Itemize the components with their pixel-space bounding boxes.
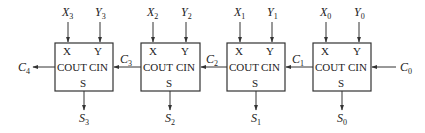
output-s0-label: S0 — [337, 111, 347, 127]
port-cout-label: COUT — [315, 61, 345, 73]
port-s-label: S — [252, 77, 258, 89]
port-s-label: S — [80, 77, 86, 89]
input-y1-label: Y1 — [267, 5, 278, 21]
port-s-label: S — [338, 77, 344, 89]
port-cout-label: COUT — [143, 61, 173, 73]
full-adder-1: X Y COUT CIN S X1 Y1 S1 — [227, 5, 285, 127]
port-cin-label: CIN — [261, 61, 280, 73]
port-x-label: X — [321, 45, 329, 57]
port-x-label: X — [235, 45, 243, 57]
port-y-label: Y — [181, 45, 189, 57]
full-adder-2: X Y COUT CIN S X2 Y2 S2 — [141, 5, 200, 127]
full-adder-3: X Y COUT CIN S X3 Y3 S3 — [55, 5, 113, 127]
output-s3-label: S3 — [79, 111, 89, 127]
carry-c1-label: C1 — [292, 52, 304, 68]
port-y-label: Y — [353, 45, 361, 57]
input-x2-label: X2 — [146, 5, 158, 21]
port-cin-label: CIN — [176, 61, 195, 73]
port-cout-label: COUT — [229, 61, 259, 73]
ripple-carry-adder-diagram: X Y COUT CIN S X3 Y3 S3 X Y COUT CIN S X… — [0, 0, 425, 133]
carry-c0-label: C0 — [400, 60, 412, 76]
output-s2-label: S2 — [165, 111, 175, 127]
input-y0-label: Y0 — [354, 5, 365, 21]
port-cout-label: COUT — [57, 61, 87, 73]
output-s1-label: S1 — [251, 111, 261, 127]
input-x0-label: X0 — [319, 5, 331, 21]
carry-c4-label: C4 — [18, 60, 30, 76]
port-cin-label: CIN — [348, 61, 367, 73]
input-x1-label: X1 — [233, 5, 245, 21]
port-x-label: X — [63, 45, 71, 57]
input-y3-label: Y3 — [95, 5, 106, 21]
carry-c2-label: C2 — [206, 52, 218, 68]
port-s-label: S — [166, 77, 172, 89]
carry-c3-label: C3 — [120, 52, 132, 68]
port-y-label: Y — [94, 45, 102, 57]
port-x-label: X — [149, 45, 157, 57]
input-y2-label: Y2 — [181, 5, 192, 21]
port-cin-label: CIN — [89, 61, 108, 73]
input-x3-label: X3 — [61, 5, 73, 21]
port-y-label: Y — [266, 45, 274, 57]
full-adder-0: X Y COUT CIN S X0 Y0 S0 — [313, 5, 371, 127]
